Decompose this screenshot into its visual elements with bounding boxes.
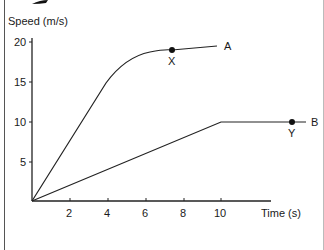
x-tick-6: 6 bbox=[142, 207, 148, 219]
point-y-label: Y bbox=[288, 127, 295, 139]
y-tick-5: 5 bbox=[20, 156, 26, 168]
x-tick-8: 8 bbox=[180, 207, 186, 219]
point-x-marker bbox=[169, 47, 175, 53]
series-b-line bbox=[32, 122, 306, 201]
y-tick-15: 15 bbox=[14, 76, 26, 88]
x-axis-label: Time (s) bbox=[261, 207, 301, 219]
point-y-marker bbox=[289, 119, 295, 125]
series-a-label: A bbox=[224, 40, 231, 52]
decorative-blob bbox=[32, 0, 48, 4]
y-tick-20: 20 bbox=[14, 36, 26, 48]
y-axis-label: Speed (m/s) bbox=[8, 15, 68, 27]
x-tick-10: 10 bbox=[214, 207, 226, 219]
point-x-label: X bbox=[168, 55, 175, 67]
series-b-label: B bbox=[311, 116, 318, 128]
series-a-line bbox=[32, 46, 217, 201]
x-tick-2: 2 bbox=[66, 207, 72, 219]
y-tick-10: 10 bbox=[14, 116, 26, 128]
x-tick-4: 4 bbox=[104, 207, 110, 219]
